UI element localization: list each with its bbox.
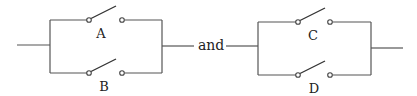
switch-c: C — [296, 8, 333, 43]
circuit-left: A B — [17, 6, 194, 94]
switch-d: D — [296, 61, 333, 96]
switch-d-pivot-icon — [296, 73, 301, 78]
switch-a-pivot-icon — [87, 18, 92, 23]
switch-b-blade — [91, 59, 116, 72]
switch-c-label: C — [308, 28, 318, 43]
switch-b-contact-icon — [120, 71, 125, 76]
switch-c-blade — [300, 8, 325, 21]
switch-d-label: D — [309, 81, 319, 96]
switch-c-pivot-icon — [296, 20, 301, 25]
connector-word: and — [198, 37, 224, 53]
switch-d-contact-icon — [328, 73, 333, 78]
switch-b-label: B — [99, 79, 109, 94]
switch-a: A — [87, 6, 125, 41]
switch-a-label: A — [95, 26, 106, 41]
switch-circuit-diagram: A B and C D — [0, 0, 417, 96]
switch-b-pivot-icon — [87, 71, 92, 76]
switch-d-blade — [300, 61, 325, 74]
circuit-right: C D — [226, 8, 403, 96]
switch-a-contact-icon — [120, 18, 125, 23]
switch-a-blade — [91, 6, 116, 19]
switch-b: B — [87, 59, 125, 94]
switch-c-contact-icon — [328, 20, 333, 25]
